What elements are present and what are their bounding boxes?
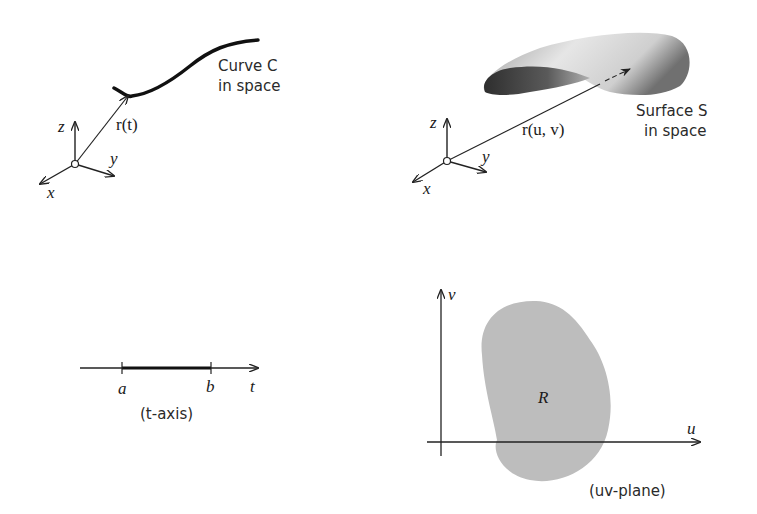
- y-axis-label: y: [110, 150, 118, 168]
- endpoint-b-label: b: [206, 378, 215, 396]
- t-axis-name-label: t: [250, 378, 255, 396]
- uv-plane-caption: (uv-plane): [589, 482, 666, 500]
- origin-point: [444, 158, 451, 165]
- uv-plane-diagram: [427, 290, 700, 481]
- origin-point: [72, 161, 79, 168]
- x-axis-label: x: [423, 180, 431, 198]
- vector-label-ruv: r(u, v): [522, 121, 564, 139]
- curve-label-line2: in space: [218, 77, 280, 95]
- z-axis-label: z: [58, 118, 65, 136]
- curve-label-line1: Curve C: [218, 57, 278, 75]
- region-r-label: R: [538, 389, 548, 407]
- surface-label-line2: in space: [644, 122, 706, 140]
- t-axis-caption: (t-axis): [140, 405, 193, 423]
- x-axis-label: x: [47, 184, 55, 202]
- y-axis-label: y: [482, 148, 490, 166]
- curve-label-2: in space: [218, 77, 280, 95]
- t-axis-diagram: [80, 362, 258, 374]
- u-axis-label: u: [687, 420, 696, 438]
- x-axis: [40, 164, 75, 184]
- surface-label-line1: Surface S: [636, 102, 707, 120]
- v-axis-label: v: [448, 286, 456, 304]
- y-axis: [75, 164, 114, 176]
- vector-label-rt: r(t): [116, 116, 138, 134]
- curve-label: Curve C: [218, 57, 278, 75]
- diagram-canvas: [0, 0, 757, 514]
- z-axis-label: z: [430, 114, 437, 132]
- endpoint-a-label: a: [118, 380, 127, 398]
- y-axis: [447, 161, 486, 172]
